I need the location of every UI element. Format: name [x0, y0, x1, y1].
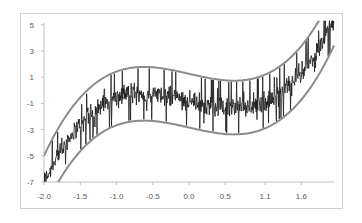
line-chart: 531-1-3-5-7-2.0-1.5-1.0-0.50.00.51.11.6	[0, 0, 362, 223]
y-tick-label: -7	[27, 178, 35, 187]
x-tick-label: 1.1	[260, 192, 272, 201]
y-tick-label: 1	[30, 73, 35, 82]
x-tick-label: 0.0	[183, 192, 195, 201]
y-tick-label: 5	[30, 21, 35, 30]
upper-band-line	[44, 0, 334, 156]
x-tick-label: 0.5	[220, 192, 232, 201]
x-tick-label: -1.5	[73, 192, 87, 201]
x-tick-label: -1.0	[110, 192, 124, 201]
y-tick-label: -5	[27, 152, 35, 161]
axes: 531-1-3-5-7-2.0-1.5-1.0-0.50.00.51.11.6	[27, 21, 334, 201]
y-tick-label: 3	[30, 47, 35, 56]
x-tick-label: -2.0	[37, 192, 51, 201]
x-tick-label: -0.5	[146, 192, 160, 201]
data-series-line	[44, 0, 334, 188]
y-tick-label: -3	[27, 126, 35, 135]
plot-area	[44, 0, 334, 210]
y-tick-label: -1	[27, 99, 35, 108]
x-tick-label: 1.6	[296, 192, 308, 201]
